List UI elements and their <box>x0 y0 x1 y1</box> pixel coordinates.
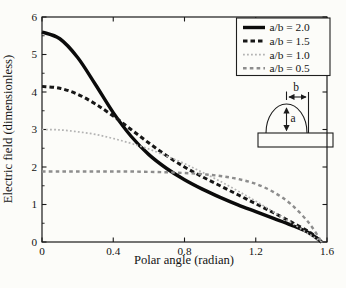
legend-label-ab-1.0: a/b = 1.0 <box>270 49 311 61</box>
y-axis-label: Electric field (dimensionless) <box>1 55 15 203</box>
y-tick-label: 2 <box>31 161 37 173</box>
x-tick-label: 1.2 <box>249 245 263 257</box>
inset-a-label: a <box>291 112 296 124</box>
x-tick-label: 1.6 <box>320 245 334 257</box>
y-tick-label: 3 <box>31 123 37 135</box>
curve-ab-1.0 <box>42 130 322 243</box>
x-tick-label: 0.4 <box>106 245 120 257</box>
inset-b-label: b <box>293 81 299 93</box>
y-tick-label: 0 <box>31 236 37 248</box>
curve-ab-1.5 <box>42 86 322 242</box>
figure: 00.40.81.21.60123456 Polar angle (radian… <box>0 0 346 288</box>
legend-label-ab-1.5: a/b = 1.5 <box>270 35 311 47</box>
inset-diagram: b a <box>258 81 333 147</box>
y-tick-label: 1 <box>31 198 37 210</box>
y-tick-label: 5 <box>31 48 37 60</box>
y-tick-label: 6 <box>31 11 37 23</box>
x-tick-label: 0 <box>39 245 45 257</box>
legend-label-ab-2.0: a/b = 2.0 <box>270 21 311 33</box>
legend-label-ab-0.5: a/b = 0.5 <box>270 62 311 74</box>
y-tick-label: 4 <box>31 86 37 98</box>
chart-svg: 00.40.81.21.60123456 Polar angle (radian… <box>0 0 346 288</box>
inset-ground-slab <box>258 133 333 147</box>
x-axis-label: Polar angle (radian) <box>134 253 234 267</box>
legend: a/b = 2.0a/b = 1.5a/b = 1.0a/b = 0.5 <box>237 18 331 76</box>
curve-ab-0.5 <box>42 171 322 242</box>
